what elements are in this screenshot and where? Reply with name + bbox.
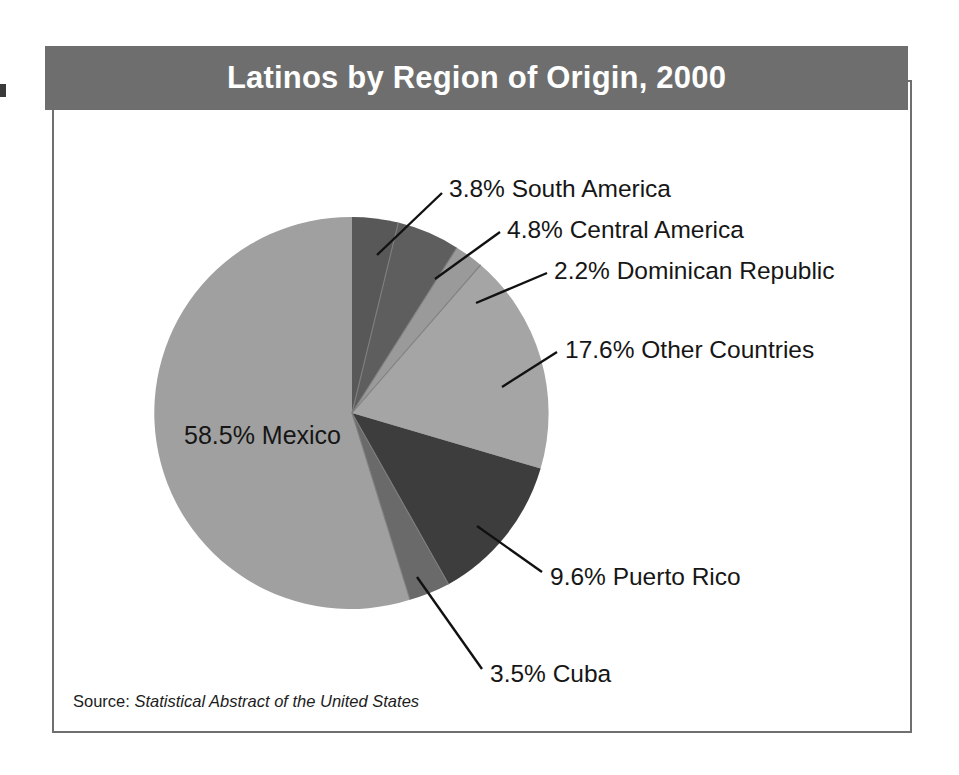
pie-label-other-countries: 17.6% Other Countries [565, 338, 814, 363]
scan-edge-mark [0, 84, 6, 97]
pie-label-central-america: 4.8% Central America [507, 218, 744, 243]
source-note: Source: Statistical Abstract of the Unit… [73, 692, 419, 711]
pie-slices [154, 217, 548, 609]
pie-label-mexico: 58.5% Mexico [184, 423, 341, 448]
pie-label-puerto-rico: 9.6% Puerto Rico [550, 565, 741, 590]
pie-chart: 3.8% South America 4.8% Central America … [52, 80, 912, 733]
chart-title-banner: Latinos by Region of Origin, 2000 [45, 46, 908, 110]
source-title: Statistical Abstract of the United State… [134, 692, 419, 710]
pie-label-south-america: 3.8% South America [449, 177, 671, 202]
source-prefix: Source: [73, 692, 134, 710]
pie-label-cuba: 3.5% Cuba [490, 662, 611, 687]
pie-label-dominican-republic: 2.2% Dominican Republic [554, 259, 835, 284]
page-title: Latinos by Region of Origin, 2000 [227, 60, 726, 96]
leader-line-cuba [417, 577, 482, 669]
